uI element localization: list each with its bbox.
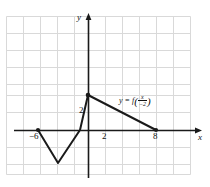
graph-figure: −6 2 8 2 y x y = f(x−2): [0, 0, 210, 187]
graph-canvas: [0, 0, 210, 187]
curve-equation-fraction: x−2: [138, 94, 147, 108]
marker-peak: [86, 93, 91, 98]
curve-equation-prefix: y = f: [119, 96, 134, 105]
y-tick-label-2: 2: [79, 105, 84, 115]
x-tick-label-8: 8: [153, 131, 158, 141]
x-axis-label: x: [198, 132, 202, 142]
x-tick-label-minus6: −6: [29, 131, 39, 141]
grid-lines: [7, 17, 191, 175]
curve-equation-denominator: −2: [138, 101, 147, 107]
x-tick-label-2: 2: [102, 131, 107, 141]
curve-equation-label: y = f(x−2): [119, 94, 151, 108]
curve-equation-numerator: x: [138, 94, 147, 101]
curve-equation-close-paren: ): [147, 95, 151, 107]
y-axis-label: y: [77, 12, 81, 22]
